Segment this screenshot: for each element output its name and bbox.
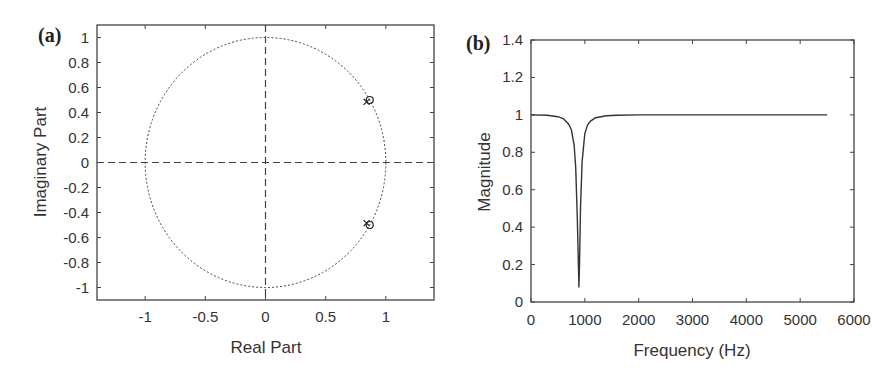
x-tick-label-a: 1: [382, 308, 390, 325]
panel-label-b: (b): [466, 32, 490, 55]
y-tick-label-b: 0.6: [502, 181, 523, 198]
y-tick-label-a: 0.8: [68, 54, 89, 71]
x-tick-labels-a: -1-0.500.51: [138, 308, 390, 325]
x-tick-label-b: 6000: [837, 311, 870, 328]
panel-label-a: (a): [38, 24, 61, 47]
x-tick-label-b: 3000: [676, 311, 709, 328]
y-tick-label-a: 0.6: [68, 79, 89, 96]
x-tick-label-b: 5000: [783, 311, 816, 328]
y-tick-label-b: 1: [515, 106, 523, 123]
x-tick-label-b: 4000: [730, 311, 763, 328]
magnitude-response-plot: (b) 00.20.40.60.811.21.4 010002000300040…: [466, 31, 871, 360]
x-tick-label-a: 0.5: [315, 308, 336, 325]
x-tick-label-b: 1000: [568, 311, 601, 328]
y-tick-label-a: -0.6: [63, 229, 89, 246]
y-tick-label-b: 0.2: [502, 256, 523, 273]
y-tick-label-b: 1.2: [502, 68, 523, 85]
y-axis-label-b: Magnitude: [475, 132, 494, 211]
x-axis-label-b: Frequency (Hz): [633, 341, 750, 360]
x-axis-label-a: Real Part: [231, 338, 302, 357]
y-tick-label-a: -1: [76, 279, 89, 296]
y-tick-labels-a: 10.80.60.40.20-0.2-0.4-0.6-0.8-1: [63, 29, 89, 296]
x-tick-label-a: -0.5: [192, 308, 218, 325]
x-tick-label-b: 0: [527, 311, 535, 328]
pole-zero-plot: (a) 10.80.60.40.20-0.2-0.4-0.6-0.8-1 -1-…: [31, 24, 434, 357]
y-tick-labels-b: 00.20.40.60.811.21.4: [502, 31, 523, 310]
y-tick-label-b: 0.4: [502, 218, 523, 235]
magnitude-curve: [531, 115, 827, 287]
x-tick-label-a: 0: [261, 308, 269, 325]
plot-area-b: [531, 40, 854, 302]
y-tick-label-a: 1: [81, 29, 89, 46]
y-tick-label-a: 0: [81, 154, 89, 171]
y-tick-label-a: -0.8: [63, 254, 89, 271]
y-tick-label-b: 1.4: [502, 31, 523, 48]
y-axis-label-a: Imaginary Part: [31, 106, 50, 217]
plot-area-a: [97, 25, 434, 300]
x-tick-label-b: 2000: [622, 311, 655, 328]
figure: (a) 10.80.60.40.20-0.2-0.4-0.6-0.8-1 -1-…: [0, 0, 896, 380]
x-tick-labels-b: 0100020003000400050006000: [527, 311, 871, 328]
y-tick-label-a: -0.2: [63, 179, 89, 196]
y-tick-label-a: -0.4: [63, 204, 89, 221]
x-tick-label-a: -1: [138, 308, 151, 325]
y-tick-label-a: 0.4: [68, 104, 89, 121]
y-tick-label-b: 0.8: [502, 143, 523, 160]
y-tick-label-b: 0: [515, 293, 523, 310]
y-tick-label-a: 0.2: [68, 129, 89, 146]
